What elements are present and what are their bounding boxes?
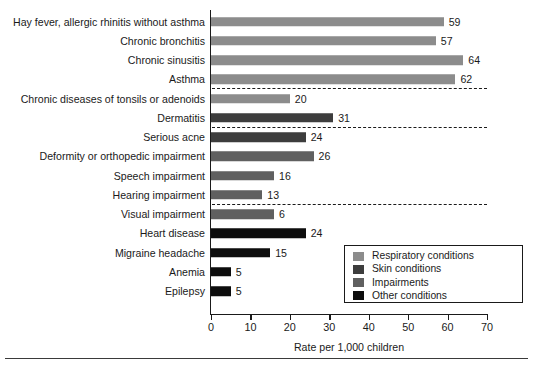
bar — [211, 94, 290, 104]
bar — [211, 190, 262, 200]
chart-row: Deformity or orthopedic impairment26 — [0, 147, 533, 166]
category-label: Chronic diseases of tonsils or adenoids — [21, 93, 205, 105]
legend-label: Other conditions — [372, 290, 447, 302]
bar-value-label: 5 — [236, 285, 242, 297]
bar — [211, 152, 314, 162]
chart-row: Asthma62 — [0, 70, 533, 89]
bar-value-label: 59 — [449, 16, 461, 28]
bar-value-label: 64 — [468, 54, 480, 66]
chart-row: Visual impairment6 — [0, 205, 533, 224]
category-label: Serious acne — [143, 131, 205, 143]
bar — [211, 113, 333, 123]
bar-value-label: 16 — [279, 170, 291, 182]
bar-value-label: 62 — [460, 73, 472, 85]
bar-value-label: 13 — [267, 189, 279, 201]
group-separator — [212, 127, 487, 128]
category-label: Heart disease — [140, 227, 205, 239]
bar — [211, 17, 444, 27]
legend-item: Other conditions — [353, 290, 522, 303]
x-tick — [290, 315, 291, 320]
category-label: Chronic bronchitis — [120, 35, 205, 47]
bar — [211, 75, 455, 85]
bar-value-label: 24 — [311, 227, 323, 239]
chart-row: Chronic bronchitis57 — [0, 31, 533, 50]
category-label: Chronic sinusitis — [128, 54, 205, 66]
x-tick-label: 10 — [244, 321, 256, 334]
category-label: Hay fever, allergic rhinitis without ast… — [13, 16, 205, 28]
bar — [211, 209, 274, 219]
x-tick-label: 30 — [323, 321, 335, 334]
bar — [211, 36, 436, 46]
bar — [211, 286, 231, 296]
group-separator — [212, 88, 487, 89]
x-tick — [487, 315, 488, 320]
bar — [211, 248, 270, 258]
bar-value-label: 31 — [338, 112, 350, 124]
legend-items: Respiratory conditionsSkin conditionsImp… — [353, 250, 522, 302]
x-tick-label: 70 — [481, 321, 493, 334]
bar-value-label: 24 — [311, 131, 323, 143]
legend-swatch-icon — [353, 278, 364, 287]
legend-swatch-icon — [353, 252, 364, 261]
bar — [211, 171, 274, 181]
category-label: Deformity or orthopedic impairment — [40, 150, 205, 162]
chart-row: Serious acne24 — [0, 128, 533, 147]
category-label: Dermatitis — [157, 112, 205, 124]
x-tick-label: 20 — [284, 321, 296, 334]
chart-row: Speech impairment16 — [0, 166, 533, 185]
bar-value-label: 15 — [275, 247, 287, 259]
legend-label: Skin conditions — [372, 263, 441, 275]
bar — [211, 132, 306, 142]
category-label: Epilepsy — [165, 285, 205, 297]
legend-item: Skin conditions — [353, 263, 522, 276]
category-label: Speech impairment — [114, 170, 205, 182]
bar-value-label: 57 — [441, 35, 453, 47]
legend-item: Respiratory conditions — [353, 250, 522, 263]
bottom-divider — [5, 358, 528, 359]
category-label: Hearing impairment — [113, 189, 205, 201]
x-axis-title: Rate per 1,000 children — [211, 341, 487, 353]
x-tick — [408, 315, 409, 320]
bar-value-label: 6 — [279, 208, 285, 220]
x-tick — [329, 315, 330, 320]
bar-value-label: 5 — [236, 266, 242, 278]
y-axis-line — [210, 10, 211, 315]
chart-legend: Respiratory conditionsSkin conditionsImp… — [344, 245, 523, 303]
legend-label: Impairments — [372, 277, 429, 289]
chart-row: Hay fever, allergic rhinitis without ast… — [0, 12, 533, 31]
x-tick-label: 0 — [208, 321, 214, 334]
bar — [211, 229, 306, 239]
bar-value-label: 20 — [295, 93, 307, 105]
legend-label: Respiratory conditions — [372, 250, 474, 262]
x-tick-label: 60 — [442, 321, 454, 334]
group-separator — [212, 204, 487, 205]
x-tick — [369, 315, 370, 320]
chart-row: Heart disease24 — [0, 224, 533, 243]
bar — [211, 267, 231, 277]
chart-row: Hearing impairment13 — [0, 185, 533, 204]
category-label: Migraine headache — [115, 247, 205, 259]
x-tick-label: 40 — [363, 321, 375, 334]
category-label: Visual impairment — [121, 208, 205, 220]
x-tick-label: 50 — [402, 321, 414, 334]
bar — [211, 55, 463, 65]
x-tick — [448, 315, 449, 320]
chart-row: Chronic sinusitis64 — [0, 51, 533, 70]
legend-swatch-icon — [353, 265, 364, 274]
x-tick — [211, 315, 212, 320]
chart-row: Chronic diseases of tonsils or adenoids2… — [0, 89, 533, 108]
bar-value-label: 26 — [319, 150, 331, 162]
category-label: Anemia — [169, 266, 205, 278]
bar-chart: Hay fever, allergic rhinitis without ast… — [0, 0, 533, 368]
x-tick — [250, 315, 251, 320]
category-label: Asthma — [169, 73, 205, 85]
legend-swatch-icon — [353, 291, 364, 300]
legend-item: Impairments — [353, 276, 522, 289]
chart-row: Dermatitis31 — [0, 108, 533, 127]
